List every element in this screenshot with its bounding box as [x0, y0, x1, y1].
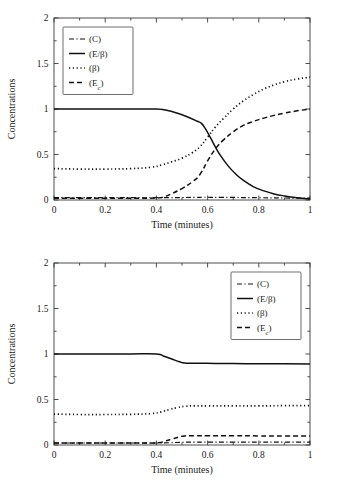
- x-tick-label: 0.4: [150, 205, 162, 215]
- x-tick-label: 0.8: [253, 450, 265, 460]
- x-tick-label: 0.4: [150, 450, 162, 460]
- x-tick-label: 0.2: [99, 205, 111, 215]
- y-tick-label: 0.5: [37, 395, 49, 405]
- curve-series-1: [54, 109, 310, 199]
- curve-series-2: [54, 406, 310, 415]
- plot-svg-top: 00.20.40.60.8100.511.52Time (minutes)Con…: [0, 0, 339, 245]
- y-tick-label: 0: [44, 195, 49, 205]
- y-tick-label: 1.5: [37, 59, 49, 69]
- y-tick-label: 0: [44, 440, 49, 450]
- y-tick-label: 1.5: [37, 304, 49, 314]
- y-axis-label: Concentrations: [6, 79, 17, 140]
- legend-label-1: (E/β): [89, 49, 108, 59]
- figure-container: 00.20.40.60.8100.511.52Time (minutes)Con…: [0, 0, 339, 490]
- x-tick-label: 0.2: [99, 450, 111, 460]
- curve-series-3: [54, 109, 310, 198]
- chart-panel-bottom: 00.20.40.60.8100.511.52Time (minutes)Con…: [0, 245, 339, 490]
- x-tick-label: 0: [52, 450, 57, 460]
- x-tick-label: 0: [52, 205, 57, 215]
- x-tick-label: 1: [308, 450, 313, 460]
- x-axis-label: Time (minutes): [151, 219, 213, 231]
- x-tick-label: 1: [308, 205, 313, 215]
- curve-series-3: [54, 436, 310, 443]
- x-tick-label: 0.8: [253, 205, 265, 215]
- x-tick-label: 0.6: [202, 205, 214, 215]
- legend-label-1: (E/β): [257, 294, 276, 304]
- legend-label-2: (β): [257, 308, 268, 318]
- y-tick-label: 1: [44, 349, 49, 359]
- curve-series-1: [54, 354, 310, 364]
- x-axis-label: Time (minutes): [151, 464, 213, 476]
- plot-svg-bottom: 00.20.40.60.8100.511.52Time (minutes)Con…: [0, 245, 339, 490]
- legend-label-2: (β): [89, 63, 100, 73]
- y-axis-label: Concentrations: [6, 324, 17, 385]
- legend-label-0: (C): [257, 279, 269, 289]
- y-tick-label: 2: [44, 13, 49, 23]
- y-tick-label: 1: [44, 104, 49, 114]
- legend-label-0: (C): [89, 34, 101, 44]
- chart-panel-top: 00.20.40.60.8100.511.52Time (minutes)Con…: [0, 0, 339, 245]
- x-tick-label: 0.6: [202, 450, 214, 460]
- y-tick-label: 2: [44, 258, 49, 268]
- y-tick-label: 0.5: [37, 150, 49, 160]
